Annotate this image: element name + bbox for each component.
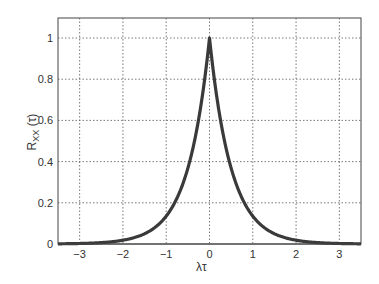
chart: −3−2−1012300.20.40.60.81RXX (τ): [0, 0, 379, 284]
x-tick-label: 2: [293, 248, 299, 260]
y-tick-label: 0.2: [38, 197, 53, 209]
x-tick-label: 0: [206, 248, 212, 260]
x-tick-label: 3: [336, 248, 342, 260]
y-tick-label: 0.6: [38, 114, 53, 126]
y-tick-label: 1: [47, 32, 53, 44]
y-tick-label: 0: [47, 238, 53, 250]
x-tick-label: −3: [73, 248, 86, 260]
x-tick-label: 1: [250, 248, 256, 260]
y-axis-label: RXX (τ): [25, 114, 41, 151]
x-axis-label: λτ: [196, 260, 207, 274]
y-tick-label: 0.8: [38, 73, 53, 85]
x-tick-label: −1: [160, 248, 173, 260]
x-tick-label: −2: [117, 248, 130, 260]
y-tick-label: 0.4: [38, 156, 53, 168]
